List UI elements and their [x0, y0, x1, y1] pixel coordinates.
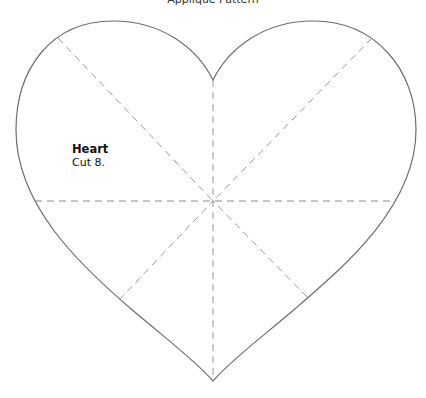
heart-pattern [0, 0, 426, 398]
pattern-name: Heart [72, 142, 108, 156]
pattern-label: Heart Cut 8. [72, 142, 108, 170]
cut-instruction: Cut 8. [72, 156, 108, 170]
